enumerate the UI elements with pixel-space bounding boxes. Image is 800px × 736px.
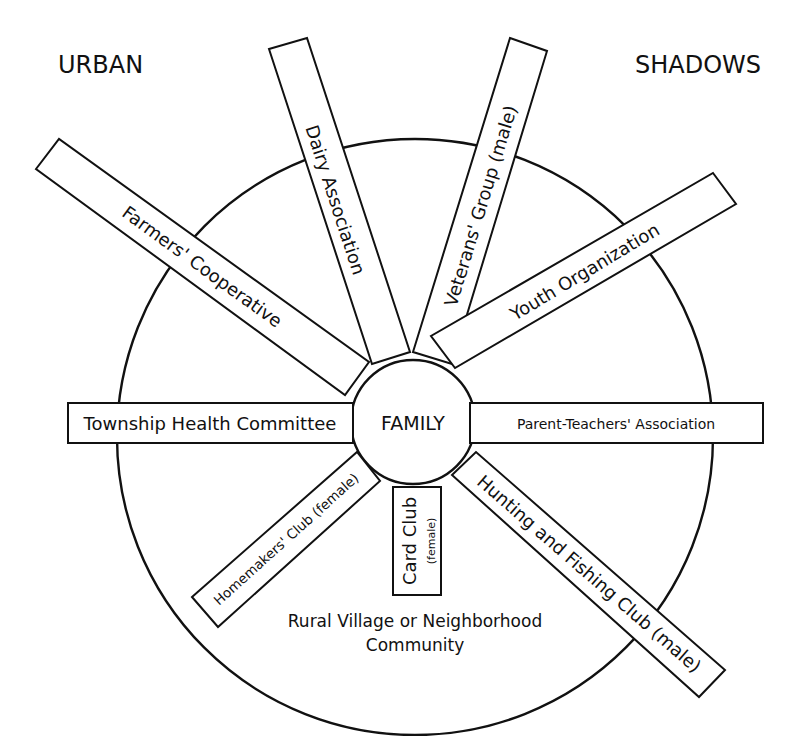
- center-label-family: FAMILY: [381, 412, 445, 434]
- spoke-parent-teachers-association: Parent-Teachers' Association: [470, 403, 763, 443]
- spoke-sublabel: (female): [425, 518, 438, 565]
- spoke-township-health-committee: Township Health Committee: [68, 403, 353, 443]
- spoke-card-club: Card Club (female): [393, 487, 441, 595]
- community-label-line1: Rural Village or Neighborhood: [288, 611, 542, 631]
- spoke-label: Homemakers' Club (female): [210, 470, 361, 608]
- spoke-hunting-fishing-club: Hunting and Fishing Club (male): [452, 452, 725, 697]
- corner-label-urban: URBAN: [58, 51, 143, 79]
- community-label-line2: Community: [366, 635, 464, 655]
- corner-label-shadows: SHADOWS: [635, 51, 761, 79]
- spoke-homemakers-club: Homemakers' Club (female): [192, 452, 380, 627]
- spoke-label: Township Health Committee: [83, 413, 337, 434]
- spoke-label: Parent-Teachers' Association: [517, 416, 715, 432]
- spoke-label: Youth Organization: [505, 219, 663, 325]
- social-structure-diagram: URBAN SHADOWS Farmers' Cooperative Dairy…: [0, 0, 800, 736]
- spoke-label: Card Club: [399, 497, 420, 585]
- spoke-label: Hunting and Fishing Club (male): [473, 471, 705, 677]
